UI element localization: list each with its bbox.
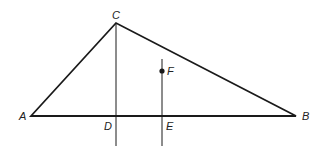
label-b: B <box>302 110 309 122</box>
label-f: F <box>167 65 175 77</box>
diagram-canvas: A B C D E F <box>0 0 331 154</box>
label-e: E <box>166 120 174 132</box>
point-f-dot <box>159 68 164 73</box>
triangle-diagram: A B C D E F <box>0 0 331 154</box>
label-d: D <box>104 120 112 132</box>
label-a: A <box>18 110 26 122</box>
label-c: C <box>112 9 120 21</box>
